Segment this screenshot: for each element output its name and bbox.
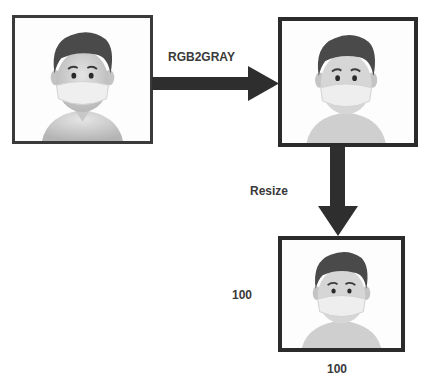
arrow-down-icon <box>316 146 360 238</box>
edge-label-resize: Resize <box>250 184 288 198</box>
avatar-image <box>282 21 414 143</box>
edge-label-rgb2gray: RGB2GRAY <box>168 50 235 64</box>
grayscale-image-box <box>278 17 418 147</box>
arrow-right-icon <box>152 64 280 104</box>
width-dimension-label: 100 <box>327 362 347 376</box>
avatar-image <box>282 240 401 348</box>
original-image-box <box>12 15 153 144</box>
height-dimension-label: 100 <box>232 288 252 302</box>
avatar-image <box>15 18 150 141</box>
resized-image-box <box>278 236 405 352</box>
